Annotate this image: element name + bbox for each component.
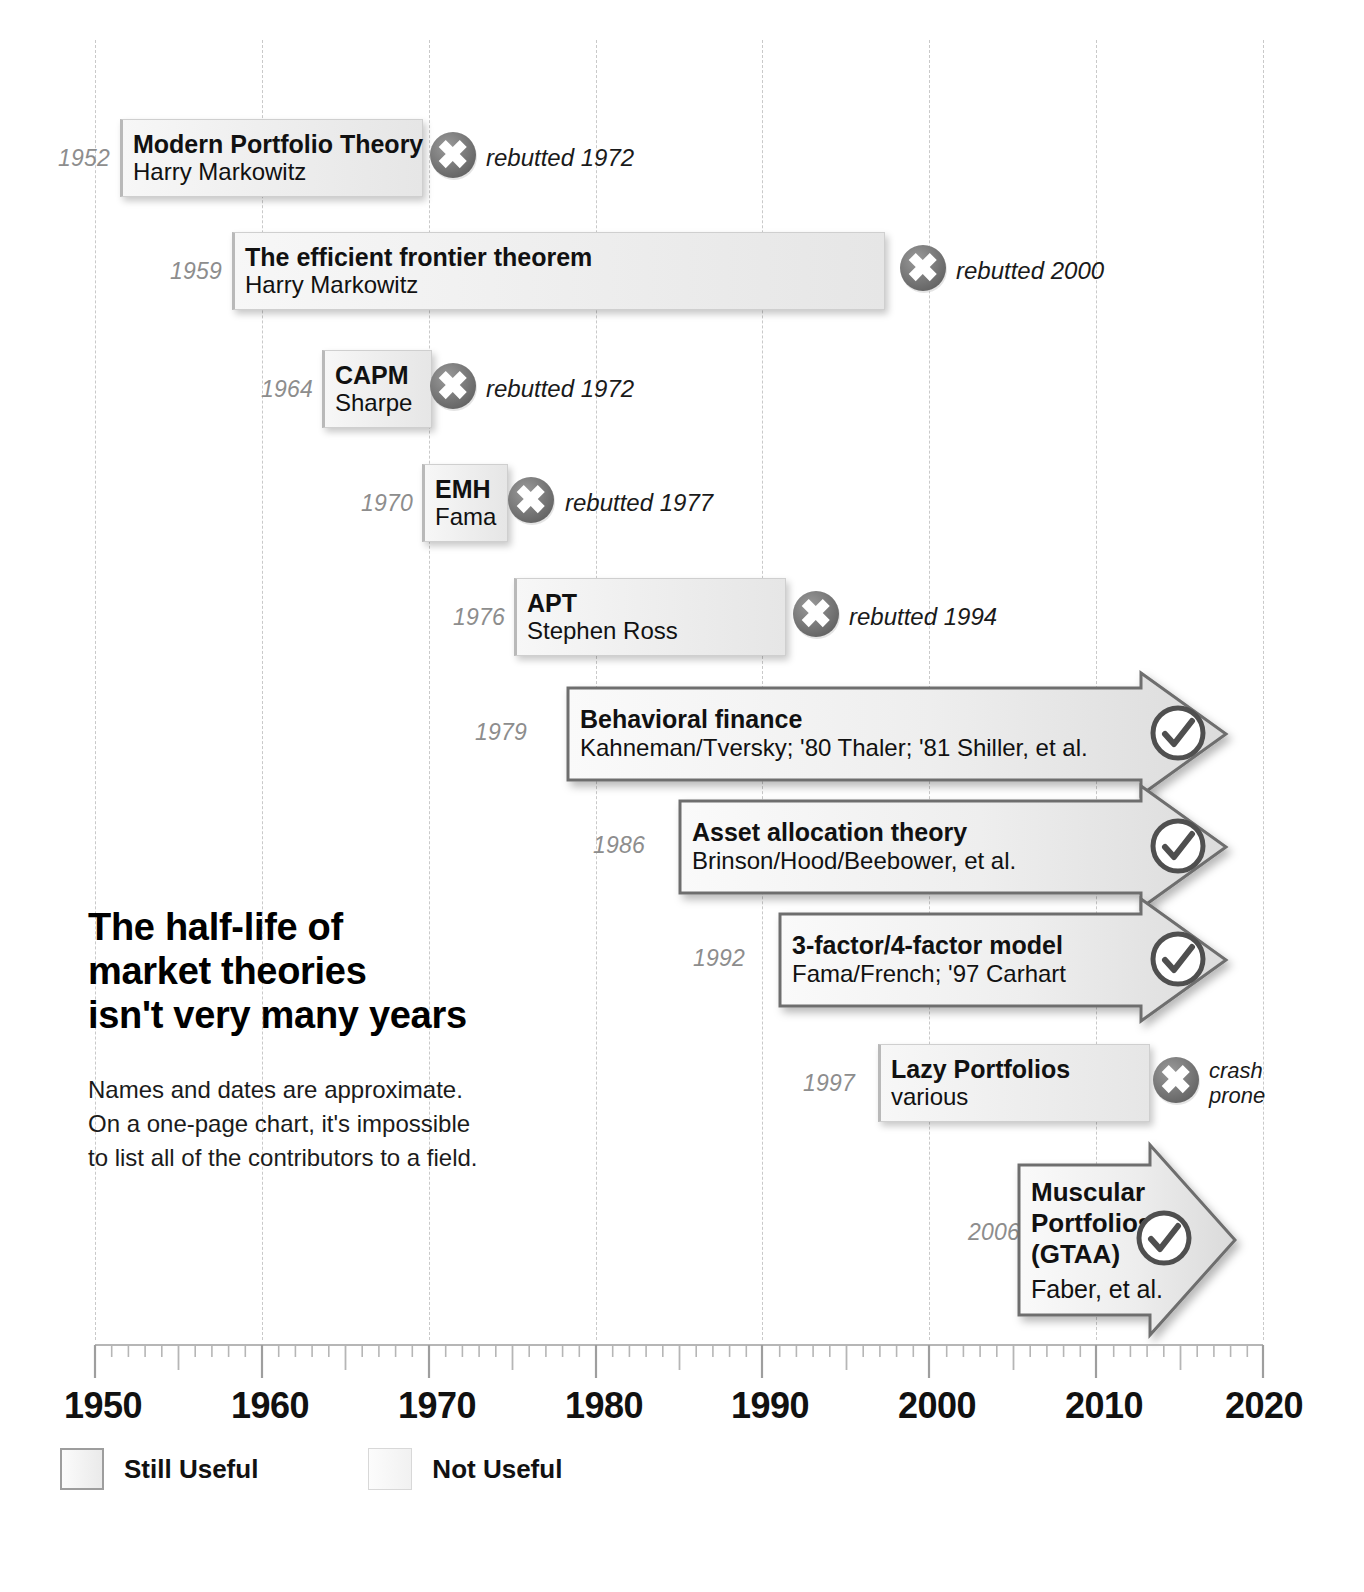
check-icon	[1147, 928, 1209, 994]
legend-item-not-useful: Not Useful	[368, 1448, 562, 1490]
row-year-1997: 1997	[765, 1070, 855, 1097]
legend-label: Not Useful	[432, 1454, 562, 1485]
still-useful-swatch	[60, 1448, 104, 1490]
x-tick-1980: 1980	[565, 1385, 643, 1427]
legend-item-still-useful: Still Useful	[60, 1448, 258, 1490]
check-icon	[1147, 702, 1209, 768]
check-icon	[1147, 815, 1209, 881]
row-year-1986: 1986	[555, 832, 645, 859]
headline-block: The half-life of market theories isn't v…	[88, 905, 558, 1175]
x-tick-1990: 1990	[731, 1385, 809, 1427]
rebuttal-note-5: rebutted 1994	[849, 604, 997, 630]
row-year-1970: 1970	[343, 490, 413, 517]
legend: Still Useful Not Useful	[60, 1448, 562, 1490]
bar-title: Behavioral finance	[580, 706, 1120, 734]
timeline-bar-lazy-portfolios[interactable]: Lazy Portfolios various	[878, 1044, 1150, 1122]
timeline-bar-capm[interactable]: CAPM Sharpe	[322, 350, 432, 428]
gridline-2020	[1263, 40, 1264, 1340]
x-icon	[427, 128, 483, 188]
x-tick-1970: 1970	[398, 1385, 476, 1427]
row-year-2006: 2006	[930, 1219, 1020, 1246]
bar-authors: Brinson/Hood/Beebower, et al.	[692, 848, 1122, 875]
x-icon	[790, 587, 846, 647]
row-year-1952: 1952	[40, 145, 110, 172]
page-title: The half-life of market theories isn't v…	[88, 905, 558, 1037]
x-icon	[427, 359, 483, 419]
bar-authors: Sharpe	[335, 390, 431, 417]
x-icon	[1150, 1053, 1206, 1113]
arrow-text: Asset allocation theory Brinson/Hood/Bee…	[692, 801, 1122, 893]
x-tick-1960: 1960	[231, 1385, 309, 1427]
bar-authors: Harry Markowitz	[133, 159, 422, 186]
bar-title: Asset allocation theory	[692, 819, 1122, 847]
bar-authors: various	[891, 1084, 1149, 1111]
timeline-chart: 1952 Modern Portfolio Theory Harry Marko…	[0, 0, 1364, 1592]
bar-title: APT	[527, 590, 785, 617]
rebuttal-note-2: rebutted 2000	[956, 258, 1104, 284]
bar-authors: Harry Markowitz	[245, 272, 884, 299]
x-icon	[505, 473, 561, 533]
bar-title: EMH	[435, 476, 507, 503]
x-tick-1950: 1950	[64, 1385, 142, 1427]
timeline-bar-efficient-frontier-theorem[interactable]: The efficient frontier theorem Harry Mar…	[232, 232, 885, 310]
x-icon	[897, 241, 953, 301]
rebuttal-note-9: crash prone	[1209, 1058, 1265, 1109]
x-tick-2020: 2020	[1225, 1385, 1303, 1427]
bar-title: 3-factor/4-factor model	[792, 932, 1132, 960]
arrow-text: Behavioral finance Kahneman/Tversky; '80…	[580, 688, 1120, 780]
timeline-bar-emh[interactable]: EMH Fama	[422, 464, 508, 542]
row-year-1959: 1959	[152, 258, 222, 285]
row-year-1992: 1992	[655, 945, 745, 972]
not-useful-swatch	[368, 1448, 412, 1490]
bar-authors: Kahneman/Tversky; '80 Thaler; '81 Shille…	[580, 735, 1120, 762]
bar-authors: Fama/French; '97 Carhart	[792, 961, 1132, 988]
row-year-1979: 1979	[437, 719, 527, 746]
check-icon	[1133, 1207, 1195, 1273]
rebuttal-note-1: rebutted 1972	[486, 145, 634, 171]
bar-title: Lazy Portfolios	[891, 1056, 1149, 1083]
headline-note: Names and dates are approximate. On a on…	[88, 1073, 558, 1175]
timeline-bar-apt[interactable]: APT Stephen Ross	[514, 578, 786, 656]
timeline-bar-modern-portfolio-theory[interactable]: Modern Portfolio Theory Harry Markowitz	[120, 119, 423, 197]
legend-label: Still Useful	[124, 1454, 258, 1485]
row-year-1976: 1976	[435, 604, 505, 631]
bar-title: Modern Portfolio Theory	[133, 131, 422, 158]
x-tick-2000: 2000	[898, 1385, 976, 1427]
x-tick-2010: 2010	[1065, 1385, 1143, 1427]
rebuttal-note-3: rebutted 1972	[486, 376, 634, 402]
bar-authors: Fama	[435, 504, 507, 531]
arrow-text: 3-factor/4-factor model Fama/French; '97…	[792, 914, 1132, 1006]
bar-title: The efficient frontier theorem	[245, 244, 884, 271]
bar-authors: Stephen Ross	[527, 618, 785, 645]
timeline-arrow-muscular-portfolios[interactable]: Muscular Portfolios (GTAA) Faber, et al.	[1017, 1143, 1240, 1335]
bar-title: CAPM	[335, 362, 431, 389]
rebuttal-note-4: rebutted 1977	[565, 490, 713, 516]
row-year-1964: 1964	[243, 376, 313, 403]
bar-authors: Faber, et al.	[1031, 1275, 1221, 1303]
timeline-arrow-behavioral-finance[interactable]: Behavioral finance Kahneman/Tversky; '80…	[566, 673, 1231, 793]
